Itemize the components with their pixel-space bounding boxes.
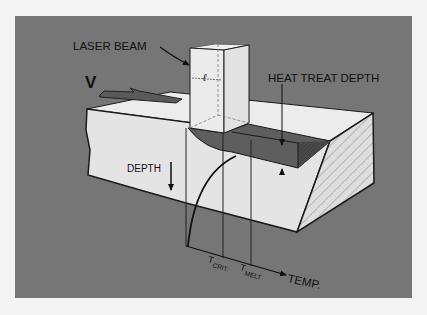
laser-beam-front [190,48,224,133]
laser-beam-side [224,45,249,133]
laser-beam-label: LASER BEAM [73,40,147,52]
heat-treat-depth-label: HEAT TREAT DEPTH [268,72,379,84]
laser-heat-treat-diagram: ℓ V LASER BEAM HEAT TREAT DEPTH DEPTH TE… [0,0,427,315]
depth-label: DEPTH [127,163,161,174]
velocity-label: V [85,73,97,92]
